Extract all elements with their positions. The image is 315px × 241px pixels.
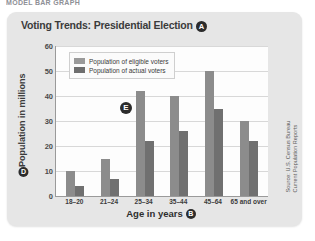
x-axis-tick: 45–64 [196,198,230,205]
bar [110,179,119,197]
source-note: Source: U.S. Census Bureau Current Popul… [284,108,300,204]
page-header: MODEL BAR GRAPH [6,0,80,6]
legend-swatch [74,58,85,64]
bar [170,96,179,196]
legend-label: Population of eligible voters [89,58,169,65]
chart-legend: Population of eligible votersPopulation … [69,52,175,79]
bar [214,109,223,197]
bar [101,159,110,197]
bar-group [205,46,223,196]
source-line-2: Current Population Reports [292,120,299,192]
y-axis-tick: 50 [45,67,53,76]
bar [66,171,75,196]
bar [249,141,258,196]
x-axis-tick: 25–34 [127,198,161,205]
chart-title: Voting Trends: Presidential ElectionA [21,19,207,32]
chart-card: Voting Trends: Presidential ElectionA DP… [7,12,302,226]
x-axis-title-text: Age in years [126,208,183,219]
bar [205,71,214,196]
bar [75,186,84,196]
x-axis-tick: 35–44 [161,198,195,205]
y-axis-tick: 30 [45,117,53,126]
y-axis-title-text: Population in millions [18,73,28,167]
bar [240,121,249,196]
y-axis-tick: 10 [45,167,53,176]
bar [136,91,145,196]
legend-label: Population of actual voters [89,67,166,74]
x-axis-tick: 65 and over [231,198,265,205]
y-axis-tick: 60 [45,42,53,51]
source-line-1: Source: U.S. Census Bureau [286,120,293,192]
bar [145,141,154,196]
callout-marker-e-wrap: E [120,98,132,116]
callout-marker-d: D [18,167,28,177]
bar-group [240,46,258,196]
x-axis-title: Age in yearsB [55,208,267,219]
chart-title-text: Voting Trends: Presidential Election [21,19,193,31]
x-axis-tick-labels: 18–2021–2425–3435–4445–6465 and over [55,198,267,205]
y-axis-tick: 0 [49,192,53,201]
x-axis-tick: 21–24 [92,198,126,205]
legend-item: Population of eligible voters [74,57,169,65]
y-axis-tick-labels: 6050403020100 [29,41,53,201]
x-axis-tick: 18–20 [57,198,91,205]
bar [179,131,188,196]
y-axis-tick: 20 [45,142,53,151]
y-axis-tick: 40 [45,92,53,101]
callout-marker-a: A [196,21,207,32]
legend-swatch [74,67,85,73]
callout-marker-b: B [186,209,196,219]
legend-item: Population of actual voters [74,66,169,74]
callout-marker-e: E [120,102,132,114]
